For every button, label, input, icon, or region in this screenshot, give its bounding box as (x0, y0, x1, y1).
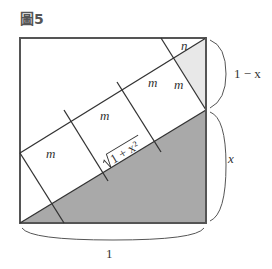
brace-bottom-right (210, 112, 226, 221)
label-n: n (181, 38, 188, 53)
diagram: m m m m n 1 + x² 1 − x x 1 (0, 0, 272, 269)
label-one: 1 (106, 246, 113, 261)
label-m-1: m (46, 146, 55, 161)
label-m-4: m (174, 77, 183, 92)
brace-bottom (22, 228, 204, 240)
label-x: x (227, 151, 234, 166)
label-one-minus-x: 1 − x (234, 66, 261, 81)
label-m-2: m (100, 108, 109, 123)
brace-top-right (210, 40, 226, 108)
cut-line-3 (117, 82, 161, 152)
label-m-3: m (148, 75, 157, 90)
light-region (174, 38, 206, 110)
